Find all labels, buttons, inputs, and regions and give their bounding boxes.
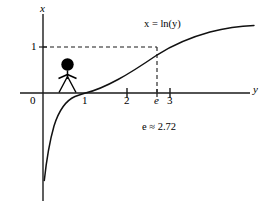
plot-canvas (0, 0, 270, 213)
stick-figure-leg-right (68, 77, 77, 93)
stick-figure-leg-left (59, 77, 68, 93)
x-tick-label-2: 2 (124, 95, 130, 106)
origin-label: 0 (30, 95, 36, 106)
stick-figure-head (61, 58, 73, 70)
curve-equation-label: x = ln(y) (144, 19, 181, 30)
x-tick-label-3: 3 (167, 95, 173, 106)
vertical-axis-label: x (40, 3, 45, 14)
x-tick-label-1: 1 (82, 95, 88, 106)
e-approximation-note: e ≈ 2.72 (142, 122, 176, 133)
y-tick-label-1: 1 (31, 41, 37, 52)
log-curve (44, 25, 254, 180)
horizontal-axis-label: y (253, 84, 258, 95)
logarithm-figure: x y 0 1 1 2 e 3 x = ln(y) e ≈ 2.72 (0, 0, 270, 213)
x-tick-label-e: e (154, 95, 159, 106)
